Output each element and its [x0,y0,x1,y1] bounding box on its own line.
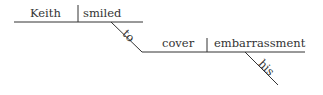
sentence-diagram: Keith smiled to cover embarrassment his [0,0,323,95]
verb-word: smiled [83,8,121,20]
subject-word: Keith [30,8,61,20]
infinitive-verb-word: cover [162,38,194,50]
object-word: embarrassment [214,38,305,50]
